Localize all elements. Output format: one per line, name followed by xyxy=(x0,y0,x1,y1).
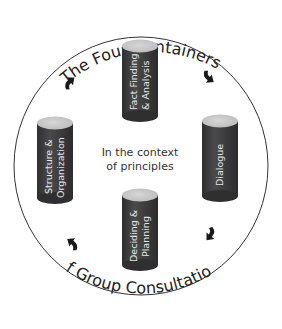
container-deciding-planning: Deciding & Planning xyxy=(122,189,158,272)
cylinder-top xyxy=(122,40,158,53)
cylinder-top xyxy=(37,117,73,130)
cylinder-top xyxy=(122,189,158,202)
container-dialogue: Dialogue xyxy=(202,115,238,203)
curved-arrow-icon xyxy=(64,235,82,252)
container-label-line2: & Analysis xyxy=(140,60,151,110)
container-label-line1: Fact Finding xyxy=(128,53,139,110)
container-label-line2: Planning xyxy=(140,216,151,257)
center-text-line1: In the context xyxy=(102,146,179,159)
container-fact-finding: Fact Finding & Analysis xyxy=(122,40,158,123)
cylinder-top xyxy=(202,115,238,128)
container-label-line1: Deciding & xyxy=(128,209,139,262)
curved-arrow-icon xyxy=(202,226,219,244)
container-label-line1: Structure & xyxy=(43,139,54,194)
container-structure-organization: Structure & Organization xyxy=(37,117,73,205)
four-containers-diagram: The Four Containers of Group Consultatio… xyxy=(0,0,282,329)
container-label-line2: Organization xyxy=(55,137,66,198)
center-text-line2: of principles xyxy=(106,160,174,173)
container-label-line1: Dialogue xyxy=(214,144,225,186)
center-text: In the context of principles xyxy=(102,146,179,173)
